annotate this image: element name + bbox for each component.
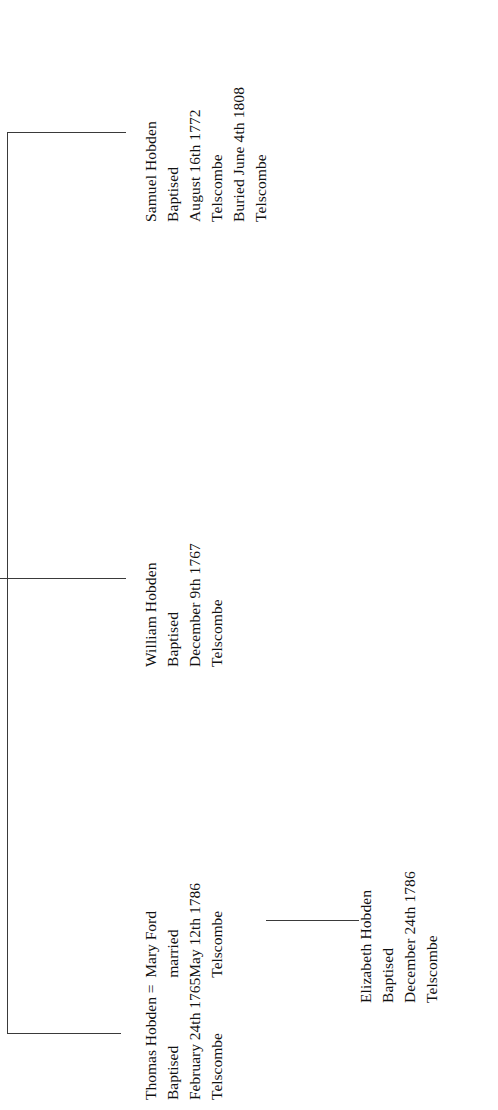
samuel-event: Baptised: [162, 87, 184, 222]
person-block-thomas: Thomas Hobden = Baptised February 24th 1…: [140, 978, 228, 1100]
branch-line-william: [0, 578, 126, 579]
samuel-name: Samuel Hobden: [140, 87, 162, 222]
thomas-place: Telscombe: [206, 978, 228, 1100]
thomas-date: February 24th 1765: [184, 978, 206, 1100]
thomas-name: Thomas Hobden =: [140, 978, 162, 1100]
sibling-spine-line: [7, 132, 8, 1034]
mary-name: Mary Ford: [140, 883, 162, 978]
mary-place: Telscombe: [206, 883, 228, 978]
family-tree-chart: Samuel Hobden Baptised August 16th 1772 …: [0, 0, 498, 1110]
mary-date: May 12th 1786: [184, 883, 206, 978]
person-block-elizabeth: Elizabeth Hobden Baptised December 24th …: [355, 871, 443, 1003]
person-block-samuel: Samuel Hobden Baptised August 16th 1772 …: [140, 87, 272, 222]
william-date: December 9th 1767: [184, 543, 206, 667]
elizabeth-name: Elizabeth Hobden: [355, 871, 377, 1003]
william-event: Baptised: [162, 543, 184, 667]
samuel-date: August 16th 1772: [184, 87, 206, 222]
branch-line-elizabeth: [266, 920, 359, 921]
samuel-place: Telscombe: [206, 87, 228, 222]
william-place: Telscombe: [206, 543, 228, 667]
person-block-william: William Hobden Baptised December 9th 176…: [140, 543, 228, 667]
couple-block-thomas-mary: Thomas Hobden = Baptised February 24th 1…: [140, 883, 228, 1100]
person-block-mary: Mary Ford married May 12th 1786 Telscomb…: [140, 883, 228, 978]
branch-line-samuel: [7, 132, 126, 133]
elizabeth-date: December 24th 1786: [399, 871, 421, 1003]
mary-event: married: [162, 883, 184, 978]
william-name: William Hobden: [140, 543, 162, 667]
branch-line-parents: [7, 1033, 121, 1034]
samuel-burial-place: Telscombe: [250, 87, 272, 222]
elizabeth-event: Baptised: [377, 871, 399, 1003]
elizabeth-place: Telscombe: [421, 871, 443, 1003]
thomas-event: Baptised: [162, 978, 184, 1100]
samuel-burial: Buried June 4th 1808: [228, 87, 250, 222]
